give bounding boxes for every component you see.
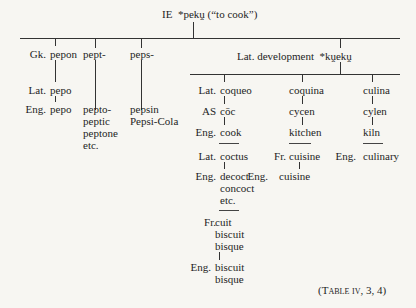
coquina-connector — [302, 74, 303, 82]
cylen-form: cylen — [363, 105, 387, 117]
cuisine-eng-form: cuisine — [279, 170, 310, 182]
latdev-down — [340, 62, 341, 74]
biscuit-forms: biscuit bisque — [215, 261, 244, 285]
peps-derivatives: pepsin Pepsi-Cola — [130, 103, 178, 127]
coquina-form: coquina — [289, 84, 324, 96]
culinary-form: culinary — [363, 150, 399, 162]
cuisine-fr-lang: Fr. — [250, 150, 286, 162]
lat-pepo-form: pepo — [50, 84, 71, 96]
cuisine-eng-lang: Eng. — [232, 170, 268, 182]
main-branch-line — [20, 38, 400, 39]
cycen-down — [302, 117, 303, 125]
coc-down — [224, 117, 225, 125]
latdev-form: *kṷekṷ — [319, 50, 351, 62]
pepon-down-line — [55, 60, 56, 82]
culina-form: culina — [363, 84, 390, 96]
eng-pepo-lang: Eng. — [10, 103, 46, 115]
cycen-form: cycen — [289, 105, 315, 117]
pept-derivatives: pepto- peptic peptone etc. — [83, 103, 118, 151]
eng-pepo-form: pepo — [50, 103, 71, 115]
bisque-down — [219, 252, 220, 260]
gk-form: pepon — [50, 48, 77, 60]
cook-form: cook — [220, 126, 241, 138]
root-gloss: (“to cook”) — [208, 8, 258, 20]
pepon-connector — [55, 38, 56, 46]
coctus-lang: Lat. — [180, 150, 216, 162]
culina-down — [372, 96, 373, 104]
decoct-underline — [219, 210, 239, 211]
kitchen-underline — [289, 143, 311, 144]
cuit-forms: cuit biscuit bisque — [215, 216, 244, 252]
lat-pepo-lang: Lat. — [10, 84, 46, 96]
latdev-branch-line — [190, 74, 400, 75]
table-reference: (Table iv, 3, 4) — [318, 284, 386, 296]
coqueo-lang: Lat. — [180, 84, 216, 96]
culinary-lang: Eng. — [320, 150, 356, 162]
caption-refs: , 3, 4) — [360, 284, 386, 296]
cuit-lang: Fr. — [180, 216, 216, 228]
coqueo-form: coqueo — [220, 84, 252, 96]
caption-table: Table iv — [322, 284, 361, 296]
kiln-underline — [363, 143, 383, 144]
kitchen-form: kitchen — [289, 126, 321, 138]
coctus-form: coctus — [220, 150, 248, 162]
root-connector — [193, 22, 194, 38]
pept-stem: pept- — [83, 48, 106, 60]
root-node: IE *pekṷ (“to cook”) — [162, 8, 257, 20]
kiln-form: kiln — [363, 126, 380, 138]
coquina-down — [302, 96, 303, 104]
cuisine-down — [299, 162, 300, 169]
culina-connector — [372, 74, 373, 82]
coc-lang: AS — [180, 105, 216, 117]
latdev-node: Lat. development *kṷekṷ — [237, 50, 352, 62]
peps-stem: peps- — [130, 48, 154, 60]
root-form: *pekṷ — [178, 8, 205, 20]
cook-underline — [219, 143, 239, 144]
decoct-lang: Eng. — [180, 170, 216, 182]
coqueo-connector — [224, 74, 225, 82]
coc-form: cōc — [220, 105, 235, 117]
coqueo-down — [224, 96, 225, 104]
pepo-down-line — [55, 96, 56, 102]
cuisine-fr-form: cuisine — [289, 150, 320, 162]
cook-lang: Eng. — [180, 126, 216, 138]
latdev-label: Lat. development — [237, 50, 314, 62]
latdev-connector — [340, 38, 341, 48]
coctus-down — [224, 162, 225, 169]
biscuit-lang: Eng. — [175, 261, 211, 273]
cylen-down — [372, 117, 373, 125]
gk-lang: Gk. — [10, 48, 46, 60]
root-lang: IE — [162, 8, 172, 20]
